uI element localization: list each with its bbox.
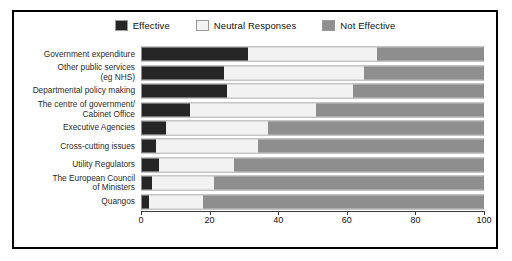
legend-swatch-effective: [115, 20, 128, 31]
axis-tick-label: 0: [138, 215, 143, 225]
bar-track: [141, 63, 484, 81]
legend-swatch-not-effective: [322, 20, 335, 31]
bar-track: [141, 100, 484, 118]
chart-row: Government expenditure: [28, 45, 484, 63]
bar-segment: [142, 177, 152, 190]
bar-track: [141, 119, 484, 137]
legend-entry: Not Effective: [322, 20, 395, 31]
bar-segment: [142, 85, 227, 98]
bar-segment: [234, 158, 483, 171]
category-label: Quangos: [28, 197, 141, 206]
bar-segment: [142, 103, 190, 116]
bar-segment: [156, 140, 258, 153]
category-label: Government expenditure: [28, 50, 141, 59]
stacked-bar: [141, 102, 484, 117]
bar-segment: [142, 140, 156, 153]
legend-label: Not Effective: [340, 20, 395, 31]
bar-segment: [214, 177, 483, 190]
chart-row: Departmental policy making: [28, 82, 484, 100]
bar-segment: [142, 158, 159, 171]
bar-track: [141, 137, 484, 155]
chart-legend: EffectiveNeutral ResponsesNot Effective: [14, 20, 496, 31]
stacked-bar: [141, 84, 484, 99]
bar-segment: [142, 66, 224, 79]
legend-entry: Effective: [115, 20, 170, 31]
legend-swatch-neutral: [196, 20, 209, 31]
category-label: Cross-cutting issues: [28, 142, 141, 151]
bar-segment: [190, 103, 316, 116]
chart-row: Executive Agencies: [28, 119, 484, 137]
chart-row: The centre of government/ Cabinet Office: [28, 100, 484, 118]
axis-tick-label: 80: [410, 215, 420, 225]
bar-track: [141, 193, 484, 211]
x-axis-line: [141, 211, 484, 212]
bar-segment: [142, 48, 248, 61]
stacked-bar: [141, 176, 484, 191]
chart-row: Utility Regulators: [28, 156, 484, 174]
category-label: Utility Regulators: [28, 160, 141, 169]
chart-row: The European Council of Ministers: [28, 174, 484, 192]
bar-segment: [149, 195, 204, 208]
bar-segment: [316, 103, 483, 116]
bar-segment: [166, 121, 268, 134]
bar-track: [141, 174, 484, 192]
bar-segment: [227, 85, 353, 98]
bar-segment: [353, 85, 483, 98]
legend-label: Effective: [133, 20, 170, 31]
chart-row: Cross-cutting issues: [28, 137, 484, 155]
stacked-bar: [141, 157, 484, 172]
bar-segment: [268, 121, 483, 134]
stacked-bar: [141, 47, 484, 62]
legend-entry: Neutral Responses: [196, 20, 297, 31]
axis-tick-label: 20: [205, 215, 215, 225]
chart-row: Other public services (eg NHS): [28, 63, 484, 81]
bar-segment: [377, 48, 483, 61]
bar-segment: [142, 195, 149, 208]
category-label: The centre of government/ Cabinet Office: [28, 100, 141, 119]
axis-tick-label: 60: [342, 215, 352, 225]
category-label: Departmental policy making: [28, 86, 141, 95]
bar-segment: [203, 195, 483, 208]
category-label: The European Council of Ministers: [28, 174, 141, 193]
axis-tick-label: 100: [476, 215, 491, 225]
bar-track: [141, 82, 484, 100]
chart-figure: EffectiveNeutral ResponsesNot Effective …: [12, 10, 498, 249]
bar-segment: [364, 66, 483, 79]
bar-segment: [258, 140, 483, 153]
bar-track: [141, 45, 484, 63]
bar-segment: [248, 48, 378, 61]
plot-area: Government expenditureOther public servi…: [28, 45, 484, 223]
bar-rows: Government expenditureOther public servi…: [28, 45, 484, 211]
stacked-bar: [141, 120, 484, 135]
category-label: Other public services (eg NHS): [28, 63, 141, 82]
category-label: Executive Agencies: [28, 123, 141, 132]
stacked-bar: [141, 139, 484, 154]
stacked-bar: [141, 65, 484, 80]
bar-track: [141, 156, 484, 174]
x-axis: 020406080100: [141, 211, 484, 223]
legend-label: Neutral Responses: [214, 20, 297, 31]
bar-segment: [224, 66, 364, 79]
chart-row: Quangos: [28, 193, 484, 211]
stacked-bar: [141, 194, 484, 209]
bar-segment: [142, 121, 166, 134]
bar-segment: [159, 158, 234, 171]
bar-segment: [152, 177, 213, 190]
axis-tick-label: 40: [273, 215, 283, 225]
